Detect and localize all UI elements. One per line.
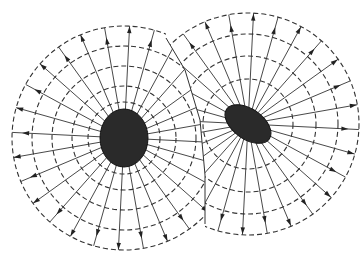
arrow-icon (240, 227, 245, 234)
arrow-icon (341, 126, 348, 131)
left-charged-body (100, 109, 148, 167)
arrow-icon (155, 158, 163, 165)
arrow-icon (16, 106, 24, 112)
field-boundary-line (166, 38, 205, 224)
arrow-icon (22, 131, 29, 136)
arrow-icon (193, 214, 200, 222)
arrow-icon (203, 21, 210, 29)
arrow-icon (116, 243, 121, 250)
arrow-icon (104, 37, 110, 45)
arrow-icon (251, 14, 256, 21)
arrow-icon (271, 27, 277, 35)
arrow-icon (94, 229, 100, 237)
arrow-icon (63, 54, 71, 62)
field-line (195, 124, 248, 221)
arrow-icon (33, 87, 41, 94)
arrow-icon (127, 26, 132, 33)
arrow-icon (350, 103, 358, 109)
field-line (248, 27, 301, 124)
arrow-icon (178, 214, 186, 222)
arrow-icon (148, 39, 154, 47)
arrow-icon (301, 199, 309, 207)
arrow-icon (333, 83, 341, 90)
arrow-icon (138, 231, 144, 239)
arrow-icon (228, 25, 234, 33)
arrow-icon (262, 216, 268, 224)
arrow-icon (180, 193, 188, 201)
arrow-icon (188, 41, 196, 49)
arrow-icon (219, 213, 225, 221)
arrow-icon (329, 167, 337, 174)
arrow-icon (347, 150, 355, 156)
arrow-icon (185, 60, 193, 68)
field-lines-diagram (0, 0, 361, 260)
field-line (175, 124, 248, 207)
arrow-icon (29, 173, 37, 180)
